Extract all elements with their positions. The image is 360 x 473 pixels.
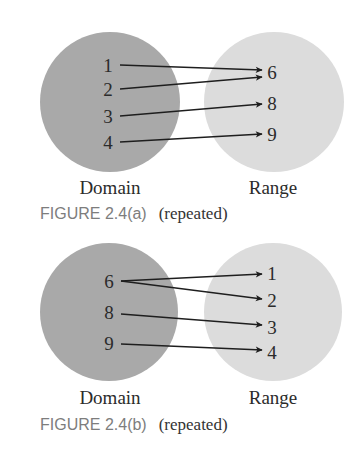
figure-a: 1 2 3 4 6 8 9 Domain Range FIGURE 2.4(a)…	[40, 32, 344, 223]
figure-caption: FIGURE 2.4(a) (repeated)	[40, 204, 228, 223]
range-element: 1	[267, 263, 277, 284]
figure-b: 6 8 9 1 2 3 4 Domain Range FIGURE 2.4(b)…	[40, 243, 342, 434]
domain-label: Domain	[79, 387, 141, 408]
domain-element: 2	[103, 79, 113, 100]
range-label: Range	[249, 387, 298, 408]
figure-number: FIGURE 2.4(b)	[40, 416, 147, 433]
figure-note: (repeated)	[159, 204, 228, 223]
range-element: 2	[267, 290, 277, 311]
domain-element: 6	[104, 271, 114, 292]
domain-element: 8	[104, 302, 114, 323]
range-element: 6	[267, 62, 277, 83]
range-element: 9	[267, 124, 277, 145]
domain-element: 4	[103, 132, 113, 153]
range-label: Range	[249, 177, 298, 198]
figure-number: FIGURE 2.4(a)	[40, 205, 147, 222]
domain-element: 9	[104, 333, 114, 354]
figure-caption: FIGURE 2.4(b) (repeated)	[40, 415, 228, 434]
range-element: 4	[267, 342, 277, 363]
range-element: 3	[267, 317, 277, 338]
domain-label: Domain	[79, 177, 141, 198]
mapping-diagrams: 1 2 3 4 6 8 9 Domain Range FIGURE 2.4(a)…	[0, 0, 360, 473]
domain-element: 3	[103, 106, 113, 127]
domain-element: 1	[103, 55, 113, 76]
figure-note: (repeated)	[159, 415, 228, 434]
range-element: 8	[267, 93, 277, 114]
